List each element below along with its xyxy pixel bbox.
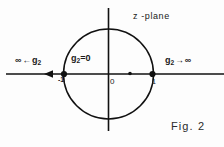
right-arrow-icon: → [174, 55, 185, 65]
tick-label-origin: 0 [110, 78, 114, 86]
g-subscript-left: 2 [37, 59, 41, 66]
real-axis-left-arrowhead [44, 70, 53, 78]
infinity-symbol-right: ∞ [185, 55, 191, 65]
figure-caption: Fig. 2 [171, 121, 205, 132]
annotation-left-limit: ∞←g2 [15, 56, 41, 67]
tick-label-positive-one: 1 [152, 78, 156, 85]
plane-label: z -plane [133, 12, 170, 21]
annotation-g2-zero: g2=0 [71, 54, 90, 65]
g-zero-value: 0 [85, 53, 90, 63]
annotation-right-limit: g2→∞ [165, 56, 191, 67]
point-plus-one [149, 71, 155, 77]
point-interior-real [128, 72, 132, 76]
figure-container: z -plane ∞←g2 g2→∞ g2=0 -1 0 1 Fig. 2 [0, 0, 224, 147]
tick-label-negative-one: -1 [58, 76, 64, 83]
left-arrow-icon: ← [21, 55, 32, 65]
